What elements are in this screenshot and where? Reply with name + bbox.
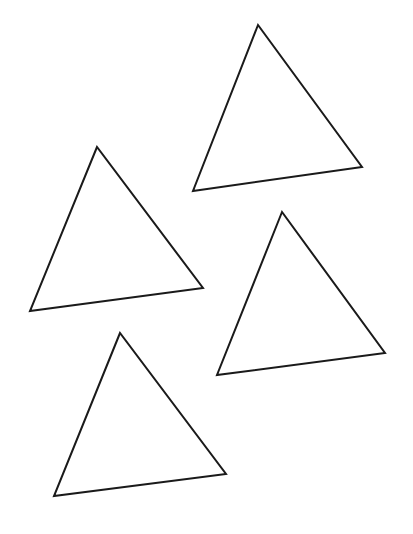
triangle-bottom-left — [54, 333, 226, 496]
triangle-mid-right — [217, 212, 385, 375]
triangle-mid-left — [30, 147, 203, 311]
triangles-drawing — [0, 0, 413, 534]
diagram-canvas — [0, 0, 413, 534]
triangle-top-right — [193, 25, 362, 191]
